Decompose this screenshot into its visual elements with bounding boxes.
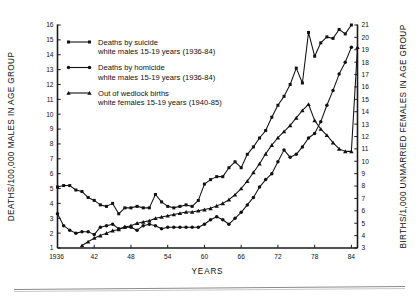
legend-marker-square-icon <box>67 41 70 44</box>
data-point <box>307 31 310 34</box>
x-axis-tick-label: 1936 <box>49 253 64 260</box>
data-point <box>283 95 286 98</box>
data-point <box>258 185 262 189</box>
y-axis-right-tick-label: 21 <box>362 21 370 28</box>
data-point <box>350 24 353 27</box>
data-point <box>56 212 60 216</box>
data-point <box>74 189 77 192</box>
data-point <box>197 225 201 229</box>
data-point <box>197 199 200 202</box>
data-point <box>233 217 237 221</box>
data-point <box>178 205 181 208</box>
data-point <box>288 156 292 160</box>
y-axis-left-tick-label: 13 <box>46 66 54 73</box>
legend-marker-circle-icon <box>88 66 92 70</box>
data-point <box>338 28 341 31</box>
data-point <box>350 46 354 50</box>
data-point <box>355 45 359 49</box>
data-point <box>105 205 108 208</box>
data-point <box>135 228 139 232</box>
data-point <box>136 205 139 208</box>
y-axis-left-tick-label: 2 <box>50 230 54 237</box>
data-point <box>344 60 348 64</box>
data-point <box>319 120 323 124</box>
y-axis-right-title: BIRTHS/1,000 UNMARRIED FEMALES IN AGE GR… <box>399 24 408 248</box>
data-point <box>86 230 90 234</box>
x-axis-tick-label: 72 <box>274 253 282 260</box>
data-point <box>154 193 157 196</box>
y-axis-right-tick-label: 14 <box>362 108 370 115</box>
x-axis-tick-label: 84 <box>348 253 356 260</box>
data-point <box>240 166 243 169</box>
data-point <box>289 83 292 86</box>
y-axis-left-tick-label: 3 <box>50 215 54 222</box>
data-point <box>282 148 286 152</box>
y-axis-left-tick-label: 4 <box>50 200 54 207</box>
y-axis-right-tick-label: 11 <box>362 145 369 152</box>
data-point <box>209 178 212 181</box>
data-point <box>270 116 273 119</box>
y-axis-right-tick-label: 12 <box>362 133 370 140</box>
data-point <box>313 55 316 58</box>
data-point <box>172 225 176 229</box>
data-point <box>142 206 145 209</box>
y-axis-right-tick-label: 19 <box>362 46 370 53</box>
y-axis-right-tick-label: 16 <box>362 83 370 90</box>
x-axis-tick-label: 48 <box>127 253 135 260</box>
data-point <box>99 203 102 206</box>
data-point <box>154 224 158 228</box>
data-point <box>93 199 96 202</box>
data-point <box>203 183 206 186</box>
y-axis-right-tick-label: 13 <box>362 121 370 128</box>
data-point <box>325 35 328 38</box>
y-axis-right-tick-label: 17 <box>362 71 370 78</box>
y-axis-right-tick-label: 15 <box>362 96 370 103</box>
data-point <box>337 72 341 76</box>
y-axis-left-tick-label: 15 <box>46 36 54 43</box>
legend-item-3: Out of wedlock birthswhite females 15-19… <box>66 89 222 107</box>
y-axis-left-tick-label: 9 <box>50 125 54 132</box>
data-point <box>148 206 151 209</box>
y-axis-left-title: DEATHS/100,000 MALES IN AGE GROUP <box>7 52 16 222</box>
data-point <box>160 227 164 231</box>
y-axis-right-tick-label: 4 <box>362 232 366 239</box>
data-point <box>184 225 188 229</box>
legend-item-label: Deaths by homicide <box>98 63 165 72</box>
y-axis-left-tick-label: 6 <box>50 170 54 177</box>
data-point <box>252 145 255 148</box>
data-point <box>191 205 194 208</box>
data-point <box>80 230 84 234</box>
data-point <box>111 202 114 205</box>
data-point <box>215 215 219 219</box>
legend-item-label: Out of wedlock births <box>98 89 169 98</box>
data-point <box>203 222 207 226</box>
data-point <box>325 104 329 108</box>
data-point <box>270 172 274 176</box>
data-point <box>301 145 305 149</box>
x-axis-tick-label: 66 <box>238 253 246 260</box>
data-point <box>227 166 230 169</box>
data-point <box>172 206 175 209</box>
y-axis-right-tick-label: 6 <box>362 207 366 214</box>
data-point <box>160 200 163 203</box>
data-point <box>111 222 115 226</box>
x-axis-title: YEARS <box>192 267 224 276</box>
data-point <box>129 206 132 209</box>
y-axis-right-tick-label: 8 <box>362 182 366 189</box>
data-point <box>258 136 261 139</box>
data-point <box>276 104 279 107</box>
data-point <box>123 206 126 209</box>
data-point <box>295 67 298 70</box>
y-axis-right-tick-label: 7 <box>362 195 366 202</box>
data-point <box>313 132 317 136</box>
data-point <box>234 160 237 163</box>
data-point <box>99 225 103 229</box>
data-point <box>227 222 231 226</box>
y-axis-left-tick-label: 11 <box>47 96 54 103</box>
data-point <box>166 225 170 229</box>
data-point <box>344 32 347 35</box>
y-axis-right-tick-label: 10 <box>362 158 370 165</box>
x-axis-tick-label: 54 <box>164 253 172 260</box>
y-axis-left-tick-label: 5 <box>50 185 54 192</box>
data-point <box>221 218 225 222</box>
